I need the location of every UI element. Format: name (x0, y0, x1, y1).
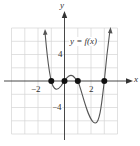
function-label: y = f(x) (69, 37, 98, 46)
tick-label-y-4: 4 (58, 50, 63, 59)
y-axis-label: y (60, 1, 64, 10)
y-axis-arrow-icon (62, 11, 67, 18)
x-axis-label: x (134, 75, 138, 84)
tick-label-y-neg4: −4 (52, 103, 62, 112)
tick-label-x-2: 2 (89, 85, 94, 94)
curve-arrow-left-icon (43, 29, 48, 35)
tick-label-x-neg2: −2 (31, 85, 41, 94)
graph-canvas (0, 0, 140, 146)
x-axis-arrow-icon (126, 78, 133, 83)
